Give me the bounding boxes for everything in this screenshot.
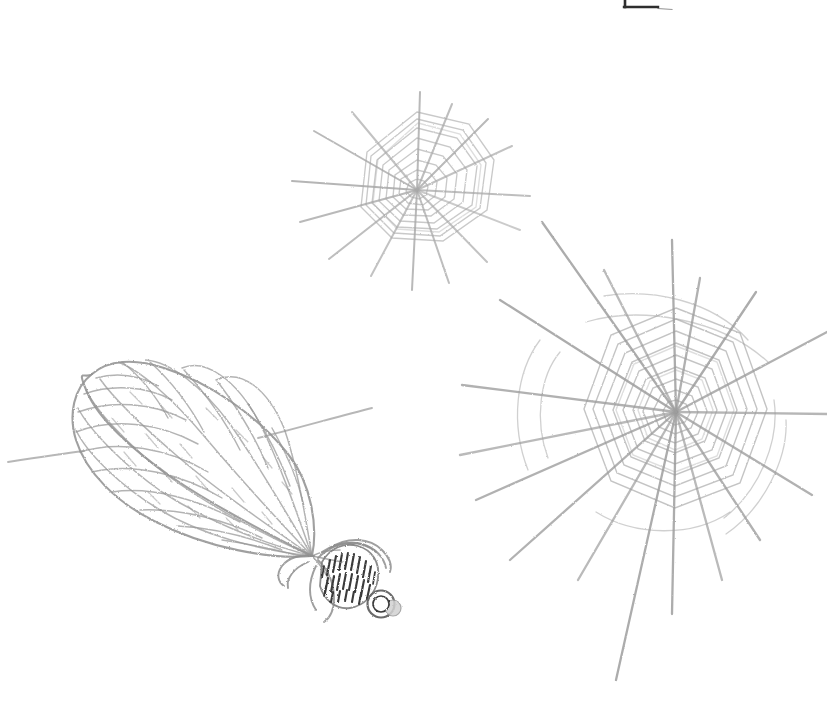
- drawing-canvas: Pencil sketch — spider webs, web balloon…: [0, 0, 827, 724]
- sketch-artwork: [0, 0, 827, 724]
